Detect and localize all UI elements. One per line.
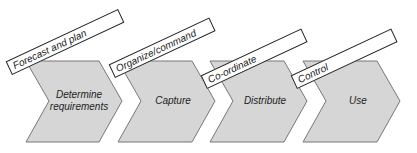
stage-label-line: Determine — [44, 89, 114, 101]
stage-label-line: Capture — [138, 95, 208, 107]
stage-label-use: Use — [323, 95, 393, 107]
stage-label-line: Use — [323, 95, 393, 107]
stage-label-capture: Capture — [138, 95, 208, 107]
stage-label-line: Distribute — [230, 95, 300, 107]
stage-label-line: requirements — [44, 101, 114, 113]
stage-label-determine-requirements: Determine requirements — [44, 89, 114, 113]
process-diagram: Determine requirements Capture Distribut… — [0, 0, 417, 153]
stage-label-distribute: Distribute — [230, 95, 300, 107]
